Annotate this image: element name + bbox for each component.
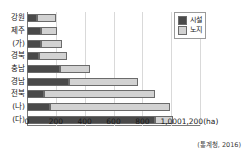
bar-row: 강원 xyxy=(27,14,56,22)
bar-segment-open-field xyxy=(50,103,170,111)
stacked-bar-chart: 강원제주(가)경북충남경남전북(나)(다) 02004006008001,000… xyxy=(0,0,245,152)
bar-segment-facility xyxy=(27,90,44,98)
legend-item-facility: 시설 xyxy=(178,16,202,25)
category-label: 경북 xyxy=(0,52,25,60)
category-label: (다) xyxy=(0,116,25,124)
bar-row: 경북 xyxy=(27,52,67,60)
gridline xyxy=(171,12,172,126)
bar-row: 제주 xyxy=(27,27,57,35)
bar-row: 전북 xyxy=(27,90,155,98)
bar-row: (나) xyxy=(27,103,170,111)
x-tick-label: 1,200(ha) xyxy=(182,117,219,126)
category-label: 충남 xyxy=(0,65,25,73)
bar-segment-facility xyxy=(27,40,41,48)
dark-swatch-icon xyxy=(178,16,187,25)
bar-segment-open-field xyxy=(41,27,58,35)
x-tick-label: 800 xyxy=(135,117,149,126)
chart-legend: 시설 노지 xyxy=(174,12,206,39)
category-label: 강원 xyxy=(0,14,25,22)
bar-segment-open-field xyxy=(39,52,67,60)
bar-row: 경남 xyxy=(27,78,138,86)
bar-segment-open-field xyxy=(44,90,155,98)
category-label: 경남 xyxy=(0,78,25,86)
x-tick-label: 600 xyxy=(106,117,120,126)
legend-item-open-field: 노지 xyxy=(178,26,202,35)
x-tick-label: 0 xyxy=(25,117,30,126)
bar-segment-facility xyxy=(27,103,50,111)
bar-segment-open-field xyxy=(69,78,138,86)
bar-segment-facility xyxy=(27,65,60,73)
bar-row: 충남 xyxy=(27,65,90,73)
light-swatch-icon xyxy=(178,26,187,35)
bar-segment-open-field xyxy=(60,65,90,73)
bar-segment-facility xyxy=(27,52,39,60)
x-tick-label: 400 xyxy=(77,117,91,126)
category-label: (가) xyxy=(0,40,25,48)
x-tick-label: 200 xyxy=(49,117,63,126)
bar-segment-open-field xyxy=(37,14,56,22)
bar-segment-facility xyxy=(27,78,69,86)
bar-segment-facility xyxy=(27,27,41,35)
category-label: 전북 xyxy=(0,90,25,98)
bar-segment-open-field xyxy=(41,40,61,48)
legend-label-facility: 시설 xyxy=(190,17,202,24)
source-note: (통계청, 2016) xyxy=(197,139,241,149)
x-tick-label: 1,000 xyxy=(160,117,181,126)
category-label: (나) xyxy=(0,103,25,111)
legend-label-open-field: 노지 xyxy=(190,27,202,34)
bar-row: (가) xyxy=(27,40,62,48)
category-label: 제주 xyxy=(0,27,25,35)
bar-segment-facility xyxy=(27,14,37,22)
